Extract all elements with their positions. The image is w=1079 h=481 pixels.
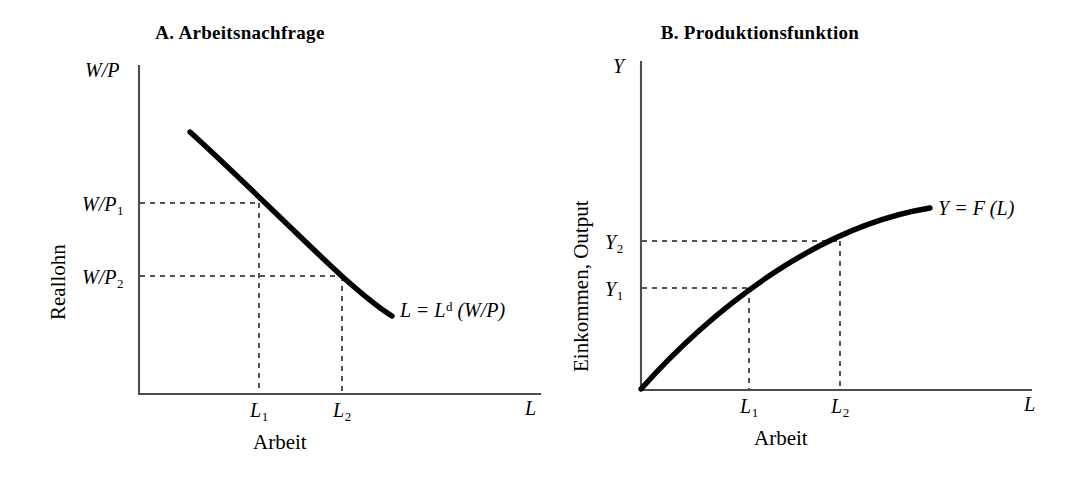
panel-a-y-tick-2: W/P2 — [82, 267, 123, 290]
panel-b-y-tick-2: Y1 — [605, 279, 623, 302]
panel-a-y-tick-1-sub: 1 — [116, 203, 123, 218]
panel-a-x-axis-symbol: L — [525, 398, 536, 418]
labour-demand-label-arg: (W/P) — [457, 299, 505, 321]
panel-b-x-tick-2: L2 — [831, 396, 849, 419]
panel-b-x-tick-2-sub: 2 — [842, 405, 849, 420]
panel-a-x-axis-name: Arbeit — [253, 430, 307, 455]
panel-b-x-tick-2-base: L — [831, 395, 842, 417]
panel-b-x-axis-symbol: L — [1024, 394, 1035, 414]
labour-demand-label-fn: L — [434, 299, 445, 321]
panel-a-x-tick-1-base: L — [250, 399, 261, 421]
panel-b-y-tick-1-base: Y — [605, 231, 616, 253]
panel-a-x-tick-1: L1 — [250, 400, 268, 423]
panel-b-y-tick-1-sub: 2 — [616, 241, 623, 256]
panel-b-y-axis-name: Einkommen, Output — [569, 201, 594, 373]
panel-a-x-tick-2-sub: 2 — [344, 409, 351, 424]
panel-a-plot — [0, 0, 560, 481]
panel-b-x-tick-1-base: L — [740, 395, 751, 417]
production-label-lhs: Y — [938, 197, 949, 219]
panel-b-x-tick-1: L1 — [740, 396, 758, 419]
panel-b-x-axis-name: Arbeit — [754, 426, 808, 451]
production-function-curve-label: Y = F (L) — [938, 198, 1014, 218]
labour-demand-label-equals: = — [416, 299, 430, 321]
production-function-curve — [641, 208, 930, 389]
panel-a-y-axis-name: Reallohn — [46, 244, 71, 320]
labour-demand-curve — [190, 132, 392, 316]
production-label-arg: (L) — [990, 197, 1014, 219]
panel-a-y-axis-symbol: W/P — [85, 60, 119, 80]
labour-demand-label-fn-sup: d — [445, 299, 452, 314]
panel-b-x-tick-1-sub: 1 — [751, 405, 758, 420]
panel-a-x-tick-2-base: L — [333, 399, 344, 421]
panel-b-y-tick-2-base: Y — [605, 278, 616, 300]
panel-a-x-tick-2: L2 — [333, 400, 351, 423]
panel-a-y-tick-1-base: W/P — [82, 193, 116, 215]
panel-a-x-tick-1-sub: 1 — [261, 409, 268, 424]
panel-a-y-tick-2-base: W/P — [82, 266, 116, 288]
panel-a-y-tick-1: W/P1 — [82, 194, 123, 217]
labour-demand-curve-label: L = Ld (W/P) — [400, 300, 505, 320]
economics-figure: A. Arbeitsnachfrage W/P L W/P1 W/P2 L1 — [0, 0, 1079, 481]
panel-b-y-axis-symbol: Y — [613, 56, 624, 76]
panel-labour-demand: A. Arbeitsnachfrage W/P L W/P1 W/P2 L1 — [0, 0, 560, 481]
panel-b-y-tick-1: Y2 — [605, 232, 623, 255]
panel-production-function: B. Produktionsfunktion Y L Y2 Y1 L1 — [540, 0, 1079, 481]
panel-b-y-tick-2-sub: 1 — [616, 288, 623, 303]
panel-a-y-tick-2-sub: 2 — [116, 276, 123, 291]
labour-demand-label-lhs: L — [400, 299, 411, 321]
production-label-equals: = — [954, 197, 968, 219]
production-label-fn: F — [973, 197, 985, 219]
